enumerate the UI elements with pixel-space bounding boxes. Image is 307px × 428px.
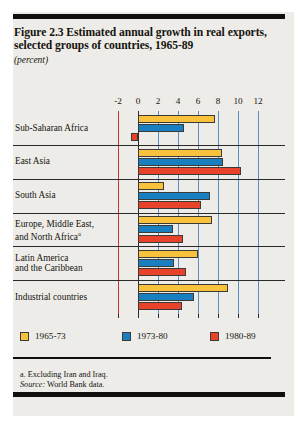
tick-mark-6 bbox=[198, 314, 199, 318]
chart-row: South Asia bbox=[13, 179, 285, 213]
bottom-rule bbox=[13, 392, 285, 397]
tick-mark-12 bbox=[258, 314, 259, 318]
bar-1980-89-industrial-countries bbox=[138, 302, 182, 310]
bar-1973-80-europe-middle-east-and-north-africa bbox=[138, 225, 173, 233]
legend-swatch-1965-73 bbox=[20, 332, 29, 341]
chart-legend: 1965-731973-801980-89 bbox=[20, 331, 275, 347]
title-block: Figure 2.3 Estimated annual growth in re… bbox=[14, 26, 272, 66]
bar-1980-89-sub-saharan-africa bbox=[131, 133, 138, 141]
category-label: Sub-Saharan Africa bbox=[15, 123, 125, 134]
bar-1980-89-latin-america-and-the-caribbean bbox=[138, 268, 186, 276]
bar-1973-80-latin-america-and-the-caribbean bbox=[138, 259, 174, 267]
bar-1973-80-industrial-countries bbox=[138, 293, 194, 301]
legend-item-1973-80: 1973-80 bbox=[122, 331, 168, 341]
chart-row: East Asia bbox=[13, 145, 285, 179]
legend-separator-rule bbox=[13, 357, 271, 359]
bar-1973-80-sub-saharan-africa bbox=[138, 124, 184, 132]
chart-row: Latin Americaand the Caribbean bbox=[13, 246, 285, 280]
legend-label: 1965-73 bbox=[35, 331, 66, 341]
legend-swatch-1980-89 bbox=[210, 332, 219, 341]
figure-page: Figure 2.3 Estimated annual growth in re… bbox=[0, 0, 307, 428]
x-axis-tick-0: 0 bbox=[136, 96, 141, 106]
category-label: Latin Americaand the Caribbean bbox=[15, 253, 125, 274]
tick-mark-10 bbox=[238, 314, 239, 318]
source-label: Source: bbox=[20, 380, 45, 389]
bar-1965-73-sub-saharan-africa bbox=[138, 115, 215, 123]
bar-1980-89-europe-middle-east-and-north-africa bbox=[138, 235, 183, 243]
bar-1980-89-east-asia bbox=[138, 167, 241, 175]
top-rule bbox=[13, 14, 285, 19]
legend-label: 1980-89 bbox=[225, 331, 256, 341]
tick-mark-4 bbox=[178, 314, 179, 318]
footnote-marker: a bbox=[78, 230, 81, 237]
tick-mark-2 bbox=[158, 314, 159, 318]
x-axis-tick-12: 12 bbox=[253, 96, 262, 106]
tick-mark-8 bbox=[218, 314, 219, 318]
footnotes-block: a. Excluding Iran and Iraq. Source: Worl… bbox=[20, 370, 270, 390]
category-label: South Asia bbox=[15, 190, 125, 201]
legend-item-1965-73: 1965-73 bbox=[20, 331, 66, 341]
chart-grid-region: Sub-Saharan AfricaEast AsiaSouth AsiaEur… bbox=[13, 111, 285, 314]
bar-1965-73-east-asia bbox=[138, 149, 222, 157]
chart-plot-area: -2024681012 Sub-Saharan AfricaEast AsiaS… bbox=[13, 96, 285, 326]
footnote-source: Source: World Bank data. bbox=[20, 380, 270, 390]
tick-mark-0 bbox=[138, 314, 139, 318]
category-label: Europe, Middle East,and North Africaa bbox=[15, 219, 125, 243]
x-axis-tick-6: 6 bbox=[196, 96, 201, 106]
x-axis-tick-labels: -2024681012 bbox=[13, 96, 285, 109]
x-axis-tick-2: 2 bbox=[156, 96, 161, 106]
category-label: East Asia bbox=[15, 156, 125, 167]
tick-mark-neg2 bbox=[118, 314, 119, 318]
bar-1965-73-south-asia bbox=[138, 182, 164, 190]
legend-label: 1973-80 bbox=[137, 331, 168, 341]
footnote-a: a. Excluding Iran and Iraq. bbox=[20, 370, 270, 380]
bar-1973-80-east-asia bbox=[138, 158, 223, 166]
category-label: Industrial countries bbox=[15, 292, 125, 303]
bar-1965-73-europe-middle-east-and-north-africa bbox=[138, 216, 212, 224]
bar-1965-73-industrial-countries bbox=[138, 284, 228, 292]
x-axis-tick-8: 8 bbox=[216, 96, 221, 106]
chart-row: Europe, Middle East,and North Africaa bbox=[13, 213, 285, 247]
bar-1980-89-south-asia bbox=[138, 201, 201, 209]
chart-row: Industrial countries bbox=[13, 280, 285, 314]
bar-1965-73-latin-america-and-the-caribbean bbox=[138, 250, 198, 258]
page-title: Figure 2.3 Estimated annual growth in re… bbox=[14, 26, 272, 53]
x-axis-tick-4: 4 bbox=[176, 96, 181, 106]
legend-swatch-1973-80 bbox=[122, 332, 131, 341]
x-axis-tick-neg2: -2 bbox=[114, 96, 122, 106]
chart-row: Sub-Saharan Africa bbox=[13, 111, 285, 145]
chart-subtitle: (percent) bbox=[14, 55, 272, 66]
x-axis-tick-10: 10 bbox=[233, 96, 242, 106]
legend-item-1980-89: 1980-89 bbox=[210, 331, 256, 341]
source-text: World Bank data. bbox=[45, 380, 104, 389]
bar-1973-80-south-asia bbox=[138, 192, 210, 200]
